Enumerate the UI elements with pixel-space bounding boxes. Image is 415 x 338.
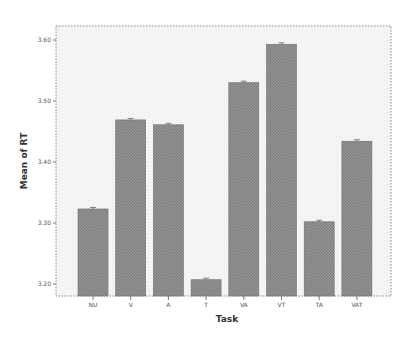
bar-a	[153, 125, 183, 296]
y-axis: 3.203.303.403.503.60	[38, 36, 56, 287]
x-tick-label: VA	[240, 301, 249, 308]
bar-ta	[304, 222, 334, 296]
bar-vat	[342, 141, 372, 296]
x-tick-label: VAT	[351, 301, 362, 308]
x-axis: NUVATVAVTTAVAT	[89, 296, 363, 308]
y-tick-label: 3.20	[38, 280, 52, 287]
x-tick-label: NU	[89, 301, 98, 308]
bar-vt	[267, 44, 297, 296]
y-tick-label: 3.50	[38, 97, 52, 104]
bar-chart: 3.203.303.403.503.60 NUVATVAVTTAVAT Task…	[0, 0, 415, 338]
x-tick-label: A	[166, 301, 171, 308]
x-tick-label: VT	[278, 301, 286, 308]
y-tick-label: 3.60	[38, 36, 52, 43]
bar-t	[191, 280, 221, 296]
x-tick-label: V	[129, 301, 134, 308]
bar-nu	[78, 209, 108, 296]
bar-v	[116, 120, 146, 296]
x-tick-label: TA	[315, 301, 324, 308]
y-tick-label: 3.30	[38, 219, 52, 226]
y-axis-title: Mean of RT	[19, 132, 29, 189]
x-tick-label: T	[203, 301, 208, 308]
bar-va	[229, 83, 259, 296]
y-tick-label: 3.40	[38, 158, 52, 165]
x-axis-title: Task	[216, 314, 239, 324]
